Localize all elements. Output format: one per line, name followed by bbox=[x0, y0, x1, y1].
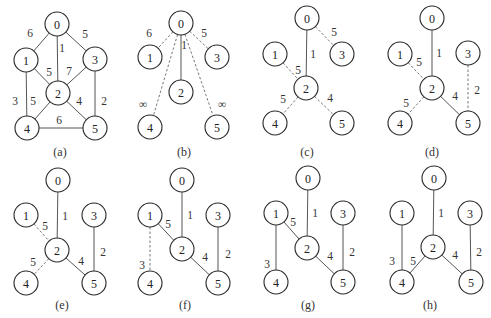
edge-weight-label: 3 bbox=[264, 258, 270, 270]
vertex-5: 5 bbox=[82, 271, 106, 295]
vertex-3: 3 bbox=[330, 42, 354, 66]
vertex-label: 1 bbox=[399, 207, 405, 221]
edge-weight-label: 5 bbox=[165, 218, 171, 230]
vertex-label: 2 bbox=[430, 241, 436, 255]
vertex-label: 4 bbox=[399, 276, 405, 290]
vertex-3: 3 bbox=[205, 45, 229, 69]
vertex-label: 2 bbox=[429, 82, 435, 96]
edge-0-1 bbox=[158, 32, 173, 48]
edge-weight-label: 5 bbox=[331, 26, 337, 38]
panel-caption: (b) bbox=[177, 145, 191, 159]
edge-0-2 bbox=[306, 30, 307, 76]
vertex-label: 0 bbox=[178, 17, 184, 31]
edge-2-4 bbox=[35, 102, 50, 119]
vertex-label: 5 bbox=[340, 276, 346, 290]
vertex-label: 4 bbox=[397, 117, 403, 131]
edge-weight-label: 5 bbox=[42, 220, 48, 232]
edge-weight-label: 7 bbox=[66, 65, 72, 77]
vertex-1: 1 bbox=[390, 201, 414, 225]
edge-weight-label: 5 bbox=[30, 95, 36, 107]
edge-weight-label: 2 bbox=[476, 246, 482, 258]
vertex-label: 5 bbox=[465, 117, 471, 131]
edge-weight-label: 4 bbox=[452, 90, 458, 102]
vertex-0: 0 bbox=[46, 168, 70, 192]
edge-weight-label: 2 bbox=[225, 248, 231, 260]
vertex-label: 5 bbox=[91, 277, 97, 291]
vertex-5: 5 bbox=[205, 115, 229, 139]
vertex-5: 5 bbox=[330, 111, 354, 135]
edge-0-2 bbox=[433, 190, 434, 235]
vertex-label: 3 bbox=[214, 51, 220, 65]
edge-weight-label: 1 bbox=[310, 48, 316, 60]
vertex-label: 4 bbox=[273, 276, 279, 290]
vertex-5: 5 bbox=[459, 270, 483, 294]
vertex-label: 1 bbox=[273, 207, 279, 221]
edge-weight-label: 4 bbox=[78, 255, 84, 267]
vertex-label: 5 bbox=[468, 276, 474, 290]
vertex-label: 5 bbox=[92, 122, 98, 136]
vertex-4: 4 bbox=[264, 270, 288, 294]
vertex-3: 3 bbox=[456, 41, 480, 65]
vertex-4: 4 bbox=[14, 271, 38, 295]
edge-weight-label: 5 bbox=[295, 64, 301, 76]
vertex-1: 1 bbox=[263, 42, 287, 66]
vertex-label: 0 bbox=[55, 174, 61, 188]
vertex-label: 2 bbox=[179, 243, 185, 257]
edge-1-4 bbox=[26, 72, 27, 116]
vertex-label: 4 bbox=[272, 117, 278, 131]
edge-0-2 bbox=[57, 36, 58, 81]
edge-weight-label: 1 bbox=[187, 209, 193, 221]
panel-caption: (f) bbox=[179, 298, 191, 312]
vertex-1: 1 bbox=[14, 48, 38, 72]
vertex-2: 2 bbox=[46, 81, 70, 105]
edge-weight-label: 1 bbox=[62, 210, 68, 222]
vertex-label: 4 bbox=[147, 277, 153, 291]
edge-weight-label: 5 bbox=[82, 28, 88, 40]
vertex-label: 5 bbox=[339, 117, 345, 131]
edge-weight-label: 2 bbox=[474, 84, 480, 96]
vertex-1: 1 bbox=[138, 45, 162, 69]
vertex-label: 3 bbox=[215, 209, 221, 223]
panel-e: 15542012345(e) bbox=[14, 168, 106, 312]
panel-caption: (a) bbox=[53, 145, 66, 159]
vertex-5: 5 bbox=[83, 116, 107, 140]
vertex-2: 2 bbox=[294, 76, 318, 100]
edge-weight-label: 1 bbox=[436, 47, 442, 59]
vertex-1: 1 bbox=[138, 203, 162, 227]
vertex-label: 0 bbox=[305, 172, 311, 186]
edge-3-5 bbox=[470, 225, 471, 270]
vertex-label: 5 bbox=[214, 121, 220, 135]
edge-weight-label: 1 bbox=[312, 207, 318, 219]
vertex-3: 3 bbox=[331, 201, 355, 225]
vertex-4: 4 bbox=[390, 270, 414, 294]
panel-a: 6155735426012345(a) bbox=[12, 12, 107, 159]
vertex-0: 0 bbox=[45, 12, 69, 36]
vertex-5: 5 bbox=[456, 111, 480, 135]
vertex-label: 2 bbox=[303, 82, 309, 96]
edge-weight-label: 5 bbox=[280, 93, 286, 105]
edge-weight-label: 5 bbox=[290, 216, 296, 228]
vertex-label: 2 bbox=[54, 244, 60, 258]
vertex-3: 3 bbox=[458, 201, 482, 225]
edge-0-2 bbox=[57, 192, 58, 238]
vertex-label: 0 bbox=[429, 12, 435, 26]
edge-weight-label: 4 bbox=[452, 249, 458, 261]
edge-weight-label: 3 bbox=[12, 95, 18, 107]
vertex-5: 5 bbox=[206, 271, 230, 295]
vertex-2: 2 bbox=[170, 237, 194, 261]
panel-d: 15542012345(d) bbox=[388, 6, 480, 159]
vertex-label: 1 bbox=[23, 209, 29, 223]
vertex-label: 3 bbox=[91, 209, 97, 223]
vertex-label: 3 bbox=[465, 47, 471, 61]
vertex-2: 2 bbox=[169, 80, 193, 104]
edge-weight-label: 4 bbox=[327, 92, 333, 104]
vertex-0: 0 bbox=[169, 11, 193, 35]
edge-weight-label: 1 bbox=[59, 42, 65, 54]
vertex-label: 0 bbox=[304, 12, 310, 26]
vertex-label: 2 bbox=[178, 86, 184, 100]
vertex-label: 2 bbox=[55, 87, 61, 101]
edge-weight-label: 5 bbox=[416, 56, 422, 68]
edge-weight-label: 5 bbox=[201, 27, 207, 39]
vertex-label: 2 bbox=[304, 242, 310, 256]
vertex-label: 4 bbox=[23, 277, 29, 291]
